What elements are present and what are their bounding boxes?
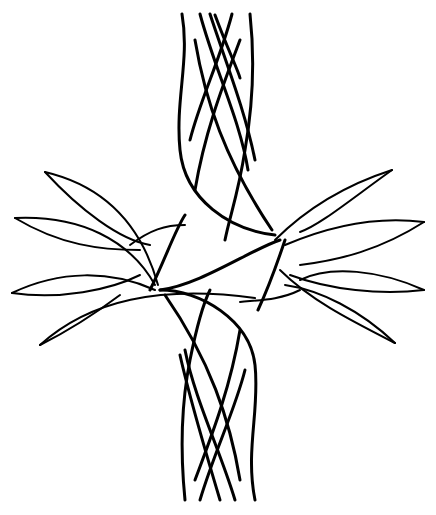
left-leaves bbox=[12, 172, 255, 345]
cross-drawing bbox=[0, 0, 436, 515]
bottom-braid bbox=[160, 290, 256, 500]
top-braid bbox=[179, 14, 275, 240]
